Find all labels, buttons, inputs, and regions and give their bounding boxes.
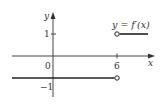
- y-axis-label: y: [43, 11, 50, 21]
- x-tick-label-6: 6: [114, 61, 120, 71]
- derivative-graph: y x 1 −1 0 6 y = f′(x): [0, 0, 163, 104]
- x-axis-label: x: [148, 58, 153, 68]
- open-endpoint-lower: [115, 76, 119, 80]
- y-tick-label-1: 1: [44, 29, 50, 39]
- function-label: y = f′(x): [111, 19, 150, 30]
- origin-label: 0: [45, 61, 51, 71]
- open-endpoint-upper: [115, 32, 119, 36]
- y-axis-arrow-icon: [51, 12, 56, 19]
- y-tick-label-neg1: −1: [40, 82, 53, 92]
